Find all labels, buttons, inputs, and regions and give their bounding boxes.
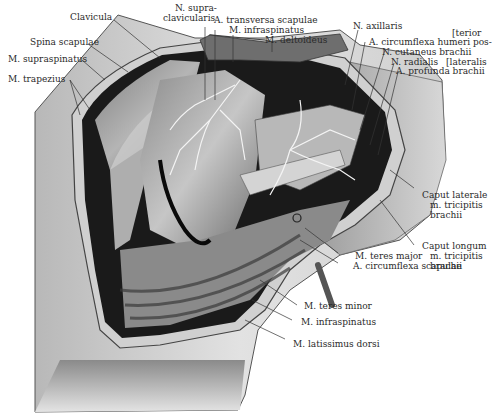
label-n-supraclavicularis-2: clavicularis [163,14,215,23]
label-clavicula: Clavicula [70,13,112,22]
label-m-infraspinatus-bottom: M. infraspinatus [301,318,376,327]
label-a-circumflexa-humeri-1: A. circumflexa humeri pos- [369,38,492,47]
lower-skin [35,360,245,412]
label-caput-laterale-2: m. tricipitis [430,201,483,210]
label-n-cutaneus-brachii: N. cutaneus brachii [382,48,471,57]
label-m-supraspinatus: M. supraspinatus [8,55,87,64]
label-caput-longum-1: Caput longum [422,242,486,251]
anatomical-illustration: Clavicula Spina scapulae M. supraspinatu… [0,0,492,419]
label-caput-laterale-3: brachii [430,211,462,220]
label-spina-scapulae: Spina scapulae [30,38,99,47]
label-m-teres-major: M. teres major [355,252,422,261]
artery-stub [318,265,332,305]
label-a-transversa-scapulae: A. transversa scapulae [214,16,318,25]
label-caput-longum-2: m. tricipitis [430,252,483,261]
label-m-deltoideus: M. deltoideus [265,36,327,45]
label-n-supraclavicularis-1: N. supra- [175,4,217,13]
label-a-profunda-brachii-1: A. profunda brachii [396,67,485,76]
label-m-infraspinatus-top: M. infraspinatus [229,26,304,35]
label-m-latissimus-dorsi: M. latissimus dorsi [293,340,380,349]
label-n-axillaris: N. axillaris [353,22,402,31]
label-caput-laterale-1: Caput laterale [422,191,487,200]
label-a-circumflexa-scapulae: A. circumflexa scapulae [353,262,462,271]
label-m-teres-minor: M. teres minor [304,302,372,311]
label-m-trapezius: M. trapezius [8,75,65,84]
